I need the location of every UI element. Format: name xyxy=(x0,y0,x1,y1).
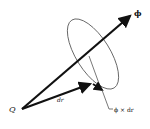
vector-diagram: Q dr ϕ ϕ × dr xyxy=(0,0,150,129)
phi-label: ϕ xyxy=(134,8,142,18)
dr-label: dr xyxy=(57,96,65,103)
cross-product-label: ϕ × dr xyxy=(114,106,134,114)
diagram-canvas: Q dr ϕ ϕ × dr xyxy=(0,0,150,129)
radius-line xyxy=(89,56,101,89)
dr-arrow xyxy=(22,84,90,109)
leader-line xyxy=(102,90,113,109)
origin-label: Q xyxy=(9,105,16,114)
phi-axis-arrow xyxy=(22,16,130,109)
